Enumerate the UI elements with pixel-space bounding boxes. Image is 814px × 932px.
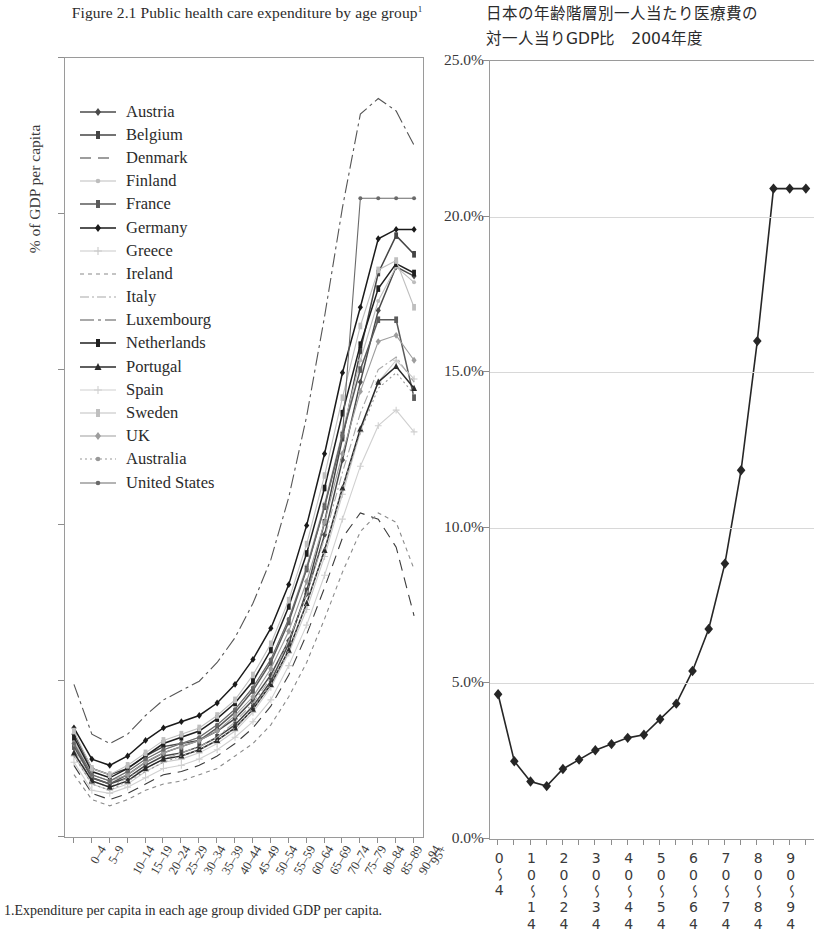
legend-item-ireland[interactable]: Ireland	[78, 262, 258, 285]
right-chart-title-line1: 日本の年齢階層別一人当たり医療費の	[486, 2, 814, 27]
left-data-point	[341, 394, 345, 401]
legend-item-greece[interactable]: Greece	[78, 239, 258, 262]
left-data-point	[90, 765, 94, 772]
right-x-tick-label: 70〜74	[716, 850, 736, 932]
left-data-point	[376, 235, 381, 242]
legend-key-icon	[78, 406, 118, 420]
legend-item-italy[interactable]: Italy	[78, 286, 258, 309]
left-data-point	[179, 731, 183, 738]
left-data-point	[269, 641, 273, 648]
left-data-point	[394, 226, 399, 233]
left-data-point	[394, 196, 398, 200]
right-x-tick-label: 30〜34	[586, 850, 606, 932]
left-data-point	[321, 572, 328, 579]
right-data-point	[785, 183, 794, 193]
legend-item-uk[interactable]: UK	[78, 425, 258, 448]
legend-item-label: France	[118, 194, 171, 214]
left-data-point	[411, 226, 416, 233]
legend-item-label: Australia	[118, 449, 186, 469]
left-data-point	[358, 379, 363, 386]
left-data-point	[269, 657, 273, 661]
left-data-point	[305, 541, 309, 548]
left-x-tick-label: 0–4	[87, 843, 109, 867]
right-series-svg	[490, 61, 814, 839]
left-data-point	[394, 232, 398, 239]
left-x-tick-label: 5–9	[105, 843, 127, 867]
left-data-point	[285, 662, 292, 669]
right-data-point	[737, 465, 746, 475]
legend-item-label: Germany	[118, 218, 187, 238]
legend-item-france[interactable]: France	[78, 193, 258, 216]
legend-item-netherlands[interactable]: Netherlands	[78, 332, 258, 355]
left-data-point	[106, 790, 113, 797]
left-data-point	[394, 316, 398, 323]
left-data-point	[126, 770, 130, 774]
right-gridline	[490, 528, 814, 529]
legend-item-germany[interactable]: Germany	[78, 216, 258, 239]
legend-key-icon	[78, 452, 118, 466]
left-data-point	[358, 196, 362, 200]
left-data-point	[162, 737, 166, 744]
left-data-point	[178, 762, 185, 769]
legend-item-denmark[interactable]: Denmark	[78, 146, 258, 169]
left-data-point	[196, 756, 203, 763]
figure-footnote: 1.Expenditure per capita in each age gro…	[4, 903, 382, 919]
left-data-point	[107, 762, 112, 769]
legend-item-portugal[interactable]: Portugal	[78, 355, 258, 378]
left-data-point	[412, 251, 416, 258]
right-gridline	[490, 372, 814, 373]
legend-item-spain[interactable]: Spain	[78, 378, 258, 401]
left-data-point	[144, 750, 148, 757]
left-data-point	[287, 597, 291, 604]
left-data-point	[88, 787, 95, 794]
right-x-tick-label: 60〜64	[684, 850, 704, 932]
right-x-tick-label: 40〜44	[619, 850, 639, 932]
right-x-tick-label: 80〜84	[748, 850, 768, 932]
left-data-point	[215, 712, 219, 719]
legend-key-icon	[78, 360, 118, 374]
legend-key-icon	[78, 174, 118, 188]
right-data-point	[802, 183, 811, 193]
left-data-point	[412, 304, 416, 311]
right-data-point	[753, 336, 762, 346]
left-data-point	[142, 774, 149, 781]
legend-item-belgium[interactable]: Belgium	[78, 123, 258, 146]
legend-item-label: Luxembourg	[118, 310, 211, 330]
left-data-point	[376, 316, 380, 323]
legend-key-icon	[78, 151, 118, 165]
right-data-point	[688, 666, 697, 676]
legend-key-icon	[78, 197, 118, 211]
legend-item-luxembourg[interactable]: Luxembourg	[78, 309, 258, 332]
legend-key-icon	[78, 383, 118, 397]
left-data-point	[269, 647, 273, 654]
left-data-point	[304, 522, 309, 529]
left-data-point	[90, 773, 94, 777]
right-y-tick-label: 25.0%	[404, 51, 484, 69]
left-data-point	[72, 728, 76, 735]
right-data-point	[721, 558, 730, 568]
legend-item-finland[interactable]: Finland	[78, 170, 258, 193]
legend-key-icon	[78, 476, 118, 490]
legend-item-sweden[interactable]: Sweden	[78, 401, 258, 424]
right-data-point	[607, 739, 616, 749]
legend-item-austria[interactable]: Austria	[78, 100, 258, 123]
left-data-point	[376, 196, 380, 200]
left-data-point	[305, 550, 309, 557]
right-data-point	[769, 183, 778, 193]
right-x-tick-label: 10〜14	[522, 850, 542, 932]
legend-item-label: United States	[118, 473, 214, 493]
right-data-point	[704, 624, 713, 634]
left-data-point	[72, 742, 76, 746]
legend-item-australia[interactable]: Australia	[78, 448, 258, 471]
legend-item-label: UK	[118, 426, 150, 446]
left-data-point	[412, 280, 416, 284]
legend-item-united-states[interactable]: United States	[78, 471, 258, 494]
left-data-point	[161, 725, 166, 732]
left-data-point	[197, 725, 201, 732]
legend-item-label: Netherlands	[118, 333, 206, 353]
left-data-point	[233, 707, 237, 711]
left-data-point	[358, 358, 362, 362]
legend-key-icon	[78, 221, 118, 235]
legend-item-label: Austria	[118, 102, 175, 122]
left-data-point	[233, 697, 237, 704]
